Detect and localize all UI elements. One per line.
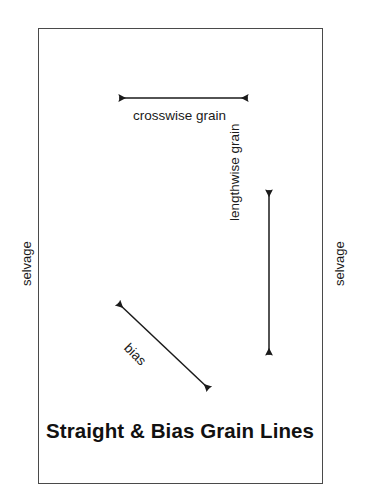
grain-line-diagram: crosswise grain lengthwise grain bias se… [0, 0, 366, 502]
diagram-title: Straight & Bias Grain Lines [0, 419, 366, 443]
fabric-rectangle [38, 28, 323, 484]
crosswise-grain-label: crosswise grain [133, 109, 226, 123]
selvage-label-right: selvage [333, 241, 346, 286]
lengthwise-grain-label: lengthwise grain [228, 123, 242, 221]
selvage-label-left: selvage [20, 241, 33, 286]
